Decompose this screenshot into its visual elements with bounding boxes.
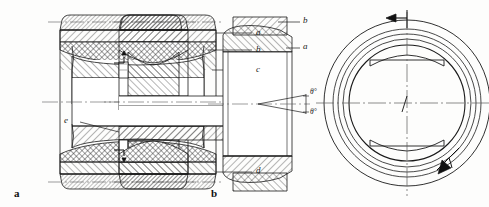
technical-drawing: a b c d e b a θ° θ° a b <box>0 0 489 207</box>
callout-a-panel-b: a <box>303 42 308 51</box>
panel-c-end-view <box>316 10 489 196</box>
callout-b-panel-a: b <box>256 45 261 54</box>
figure-caption-b: b <box>211 188 217 199</box>
panel-a-bearing-2-body <box>104 15 240 189</box>
callout-c-panel-a: c <box>256 65 260 74</box>
drawing-canvas <box>0 0 489 207</box>
callout-b-panel-b: b <box>303 16 308 25</box>
angle-upper-label: θ° <box>310 88 317 96</box>
callout-e-panel-a: e <box>64 116 68 125</box>
callout-a-panel-a: a <box>256 28 261 37</box>
figure-caption-a: a <box>14 188 20 199</box>
callout-d-panel-a: d <box>256 166 261 175</box>
angle-lower-label: θ° <box>310 108 317 116</box>
